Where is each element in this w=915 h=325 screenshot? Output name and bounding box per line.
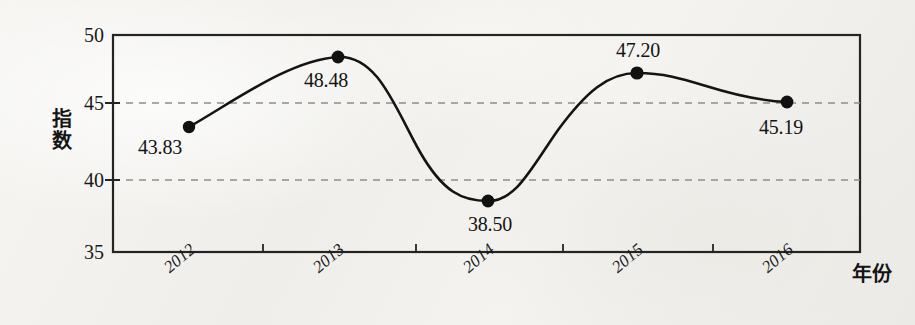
data-point-markers xyxy=(183,51,794,208)
series-path-index xyxy=(189,57,787,201)
data-point-2016[interactable] xyxy=(781,96,794,109)
line-chart-graphic xyxy=(0,0,915,325)
y-axis-title-line-2: 数 xyxy=(52,130,72,152)
data-point-2014[interactable] xyxy=(482,195,495,208)
data-point-2013[interactable] xyxy=(332,51,345,64)
gridlines xyxy=(113,103,860,180)
value-label-2016: 45.19 xyxy=(759,116,803,139)
data-point-2015[interactable] xyxy=(630,66,643,79)
y-axis-label-35: 35 xyxy=(66,241,104,264)
value-label-2013: 48.48 xyxy=(304,69,348,92)
y-axis-title-line-1: 指 xyxy=(52,108,72,130)
data-series-line xyxy=(189,57,787,201)
chart-page: 50 45 40 35 指数 指 数 2012 2013 2014 2015 2… xyxy=(0,0,915,325)
y-axis-label-40: 40 xyxy=(66,169,104,192)
data-point-2012[interactable] xyxy=(183,121,195,133)
value-label-2015: 47.20 xyxy=(616,39,660,62)
y-axis-title: 指数 指 数 xyxy=(48,108,76,153)
value-label-2012: 43.83 xyxy=(138,136,182,159)
value-label-2014: 38.50 xyxy=(468,213,512,236)
y-axis-label-50: 50 xyxy=(66,24,104,47)
x-axis-title: 年份 xyxy=(852,258,892,287)
